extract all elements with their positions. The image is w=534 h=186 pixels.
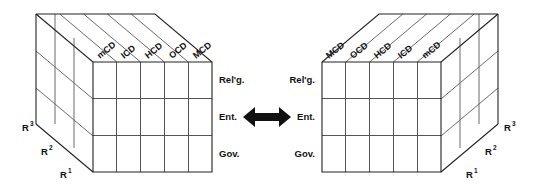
right-depth-label-1-base: R <box>485 146 492 157</box>
right-depth-label-0-exp: 3 <box>512 120 516 127</box>
left-row-label-2: Gov. <box>219 148 239 159</box>
right-depth-label-2-exp: 1 <box>474 167 478 174</box>
right-depth-label-0-base: R <box>504 122 511 133</box>
figure-container: mCD ICD HCD OCD MCD Rel'g. Ent. Gov. R 3… <box>0 0 534 186</box>
right-depth-label-1-exp: 2 <box>493 144 497 151</box>
cube-comparison-diagram: mCD ICD HCD OCD MCD Rel'g. Ent. Gov. R 3… <box>0 0 534 186</box>
right-cube-row-labels: Rel'g. Ent. Gov. <box>290 74 316 159</box>
right-depth-label-2-base: R <box>466 169 473 180</box>
left-row-label-1: Ent. <box>219 111 237 122</box>
left-depth-label-2-exp: 1 <box>68 167 72 174</box>
right-row-label-1: Ent. <box>297 111 315 122</box>
right-row-label-2: Gov. <box>295 148 315 159</box>
left-depth-label-1-base: R <box>41 146 48 157</box>
left-cube-row-labels: Rel'g. Ent. Gov. <box>219 74 245 159</box>
bidirectional-arrow <box>243 107 291 127</box>
left-depth-label-2-base: R <box>60 169 67 180</box>
left-depth-label-0-exp: 3 <box>30 120 34 127</box>
right-cube-front-face <box>322 62 441 172</box>
left-cube-front-face <box>93 62 212 172</box>
bidirectional-arrow-icon <box>243 107 291 127</box>
left-cube: mCD ICD HCD OCD MCD Rel'g. Ent. Gov. R 3… <box>22 14 245 180</box>
left-row-label-0: Rel'g. <box>219 74 245 85</box>
right-cube: MCD OCD HCD ICD mCD Rel'g. Ent. Gov. R 3… <box>290 14 517 180</box>
left-depth-label-1-exp: 2 <box>49 144 53 151</box>
right-row-label-0: Rel'g. <box>290 74 316 85</box>
left-depth-label-0-base: R <box>22 122 29 133</box>
